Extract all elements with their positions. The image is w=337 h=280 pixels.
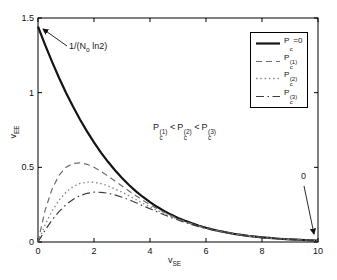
legend-line-dashdot (255, 92, 281, 101)
legend-item-pc1: P(1)c (255, 53, 306, 69)
curve-dotted (38, 182, 318, 242)
limit-arrow (43, 29, 67, 46)
x-tick-label: 4 (147, 246, 152, 256)
x-tick-label: 10 (313, 246, 323, 256)
figure-canvas: 024681000.511.5 vEE vSE 1/(No ln2) 0 P(1… (0, 0, 337, 280)
less-than-sign: < (194, 122, 199, 132)
annotation-zero: 0 (301, 172, 306, 181)
y-tick-label: 1.5 (21, 13, 34, 23)
x-tick-label: 6 (203, 246, 208, 256)
x-tick-label: 8 (259, 246, 264, 256)
legend-label: P(3)c (284, 89, 298, 104)
curve-dashed (38, 163, 318, 242)
ineq-term-2: P(2)c (177, 122, 192, 132)
zero-arrow (304, 186, 314, 234)
x-tick-label: 2 (91, 246, 96, 256)
x-tick-label: 0 (35, 246, 40, 256)
y-tick-label: 0 (29, 237, 34, 247)
ineq-term-1: P(1)c (153, 122, 168, 132)
legend-label: P(2)c (284, 71, 298, 86)
annotation-limit: 1/(No ln2) (69, 42, 107, 54)
legend-item-pc2: P(2)c (255, 71, 306, 87)
legend-box: Pc=0 P(1)c P(2)c P(3)c (250, 32, 308, 108)
y-tick-label: 0.5 (21, 162, 34, 172)
legend-item-pc0: Pc=0 (255, 36, 306, 52)
less-than-sign: < (170, 122, 175, 132)
annotation-inequality: P(1)c<P(2)c<P(3)c (153, 123, 216, 139)
x-axis-label: vSE (168, 255, 181, 267)
legend-line-dashed (255, 57, 281, 66)
legend-label: Pc=0 (284, 37, 302, 51)
y-tick-label: 1 (29, 88, 34, 98)
y-axis-label: vEE (8, 109, 20, 155)
ineq-term-3: P(3)c (201, 122, 216, 132)
legend-line-solid (255, 39, 281, 48)
legend-line-dotted (255, 74, 281, 83)
legend-label: P(1)c (284, 54, 298, 69)
legend-item-pc3: P(3)c (255, 88, 306, 104)
